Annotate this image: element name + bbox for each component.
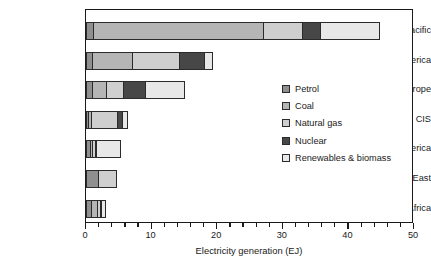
x-axis-major-tick	[85, 223, 86, 229]
legend-item[interactable]: Natural gas	[282, 115, 391, 132]
bar-segment	[123, 112, 127, 128]
bar-segment	[205, 53, 213, 69]
x-axis-minor-tick	[256, 223, 257, 227]
stacked-bar[interactable]	[86, 52, 213, 70]
bar-segment	[146, 82, 184, 98]
x-axis-minor-tick	[98, 223, 99, 227]
legend-item[interactable]: Coal	[282, 97, 391, 114]
stacked-bar[interactable]	[86, 140, 121, 158]
bar-segment	[87, 171, 99, 187]
bar-segment	[94, 23, 265, 39]
legend-swatch-icon	[282, 119, 290, 127]
x-axis-minor-tick	[177, 223, 178, 227]
bar-segment	[124, 82, 147, 98]
x-axis-major-tick	[347, 223, 348, 229]
legend-swatch-icon	[282, 85, 290, 93]
x-axis-tick-label: 30	[267, 230, 297, 240]
x-axis-tick-label: 10	[136, 230, 166, 240]
bar-segment	[180, 53, 205, 69]
x-axis-minor-tick	[190, 223, 191, 227]
x-axis-minor-tick	[308, 223, 309, 227]
chart-legend: PetrolCoalNatural gasNuclearRenewables &…	[282, 80, 391, 167]
x-axis-major-tick	[282, 223, 283, 229]
x-axis-minor-tick	[321, 223, 322, 227]
x-axis-minor-tick	[137, 223, 138, 227]
bar-segment	[93, 53, 133, 69]
x-axis-minor-tick	[242, 223, 243, 227]
legend-label: Coal	[295, 101, 314, 111]
bar-segment	[107, 82, 124, 98]
x-axis-minor-tick	[387, 223, 388, 227]
x-axis-minor-tick	[111, 223, 112, 227]
x-axis-tick-label: 0	[70, 230, 100, 240]
legend-item[interactable]: Petrol	[282, 80, 391, 97]
stacked-bar[interactable]	[86, 111, 128, 129]
stacked-bar[interactable]	[86, 200, 106, 218]
x-axis-tick-label: 20	[201, 230, 231, 240]
legend-item[interactable]: Renewables & biomass	[282, 150, 391, 167]
bar-segment	[264, 23, 303, 39]
x-axis-major-tick	[216, 223, 217, 229]
x-axis-minor-tick	[203, 223, 204, 227]
stacked-bar[interactable]	[86, 170, 117, 188]
legend-swatch-icon	[282, 137, 290, 145]
bar-segment	[133, 53, 179, 69]
x-axis-minor-tick	[269, 223, 270, 227]
bar-segment	[102, 201, 105, 217]
legend-label: Nuclear	[295, 136, 327, 146]
x-axis-minor-tick	[164, 223, 165, 227]
x-axis-minor-tick	[361, 223, 362, 227]
chart-figure: Asia PacificNorth AmericaEuropeCISS&C Am…	[0, 0, 431, 270]
x-axis-title: Electricity generation (EJ)	[85, 245, 413, 256]
x-axis-major-tick	[151, 223, 152, 229]
x-axis: 01020304050	[85, 223, 413, 224]
bar-segment	[92, 112, 118, 128]
bar-segment	[93, 82, 107, 98]
x-axis-tick-label: 40	[332, 230, 362, 240]
x-axis-minor-tick	[334, 223, 335, 227]
legend-label: Renewables & biomass	[295, 153, 391, 163]
bar-segment	[97, 141, 120, 157]
stacked-bar[interactable]	[86, 22, 380, 40]
legend-item[interactable]: Nuclear	[282, 132, 391, 149]
legend-label: Natural gas	[295, 118, 342, 128]
bar-segment	[99, 171, 116, 187]
x-axis-major-tick	[413, 223, 414, 229]
bar-segment	[303, 23, 321, 39]
legend-swatch-icon	[282, 154, 290, 162]
x-axis-minor-tick	[124, 223, 125, 227]
legend-label: Petrol	[295, 84, 319, 94]
x-axis-minor-tick	[374, 223, 375, 227]
stacked-bar[interactable]	[86, 81, 185, 99]
x-axis-minor-tick	[229, 223, 230, 227]
x-axis-tick-label: 50	[398, 230, 428, 240]
x-axis-minor-tick	[400, 223, 401, 227]
legend-swatch-icon	[282, 102, 290, 110]
bar-segment	[321, 23, 379, 39]
x-axis-minor-tick	[295, 223, 296, 227]
